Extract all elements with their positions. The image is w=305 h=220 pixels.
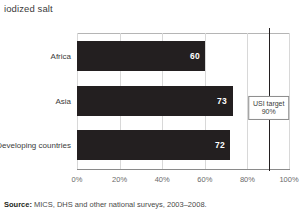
xtick-label-20: 20% bbox=[112, 175, 127, 184]
xtick-label-0: 0% bbox=[72, 175, 83, 184]
category-label-developing-countries: Developing countries bbox=[0, 141, 71, 150]
xtick-label-100: 100% bbox=[279, 175, 298, 184]
bar-value-africa: 60 bbox=[190, 51, 200, 61]
bar-asia[interactable] bbox=[77, 86, 233, 116]
source-note: Source: MICS, DHS and other national sur… bbox=[4, 200, 207, 209]
bar-africa[interactable] bbox=[77, 41, 205, 71]
bar-value-developing-countries: 72 bbox=[215, 140, 225, 150]
xtick-label-60: 60% bbox=[197, 175, 212, 184]
axis-baseline bbox=[77, 169, 290, 170]
category-label-africa: Africa bbox=[51, 52, 71, 61]
xtick-label-40: 40% bbox=[155, 175, 170, 184]
bar-value-asia: 73 bbox=[217, 96, 227, 106]
iodized-salt-bar-chart: iodized salt 60 73 72 Africa Asia Develo… bbox=[0, 0, 305, 220]
source-text: MICS, DHS and other national surveys, 20… bbox=[34, 200, 207, 209]
bar-developing-countries[interactable] bbox=[77, 130, 230, 160]
usi-target-callout-value: 90% bbox=[253, 108, 285, 116]
usi-target-callout: USI target 90% bbox=[248, 96, 290, 120]
source-label: Source: bbox=[4, 200, 32, 209]
axis-top-line bbox=[77, 33, 290, 34]
xtick-label-80: 80% bbox=[240, 175, 255, 184]
category-label-asia: Asia bbox=[55, 97, 71, 106]
chart-title: iodized salt bbox=[4, 3, 53, 14]
usi-target-callout-title: USI target bbox=[253, 100, 285, 108]
